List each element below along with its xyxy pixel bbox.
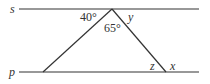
line-s-label: s: [10, 2, 15, 16]
parallel-lines-diagram: s p 40° 65° y z x: [0, 0, 210, 84]
angle-x-label: x: [169, 59, 176, 73]
triangle-right-side: [112, 9, 166, 72]
angle-y-label: y: [127, 10, 134, 24]
angle-65-label: 65°: [104, 21, 121, 35]
angle-40-label: 40°: [80, 10, 97, 24]
triangle-left-side: [43, 9, 112, 72]
line-p-label: p: [8, 65, 15, 79]
angle-z-label: z: [149, 59, 155, 73]
